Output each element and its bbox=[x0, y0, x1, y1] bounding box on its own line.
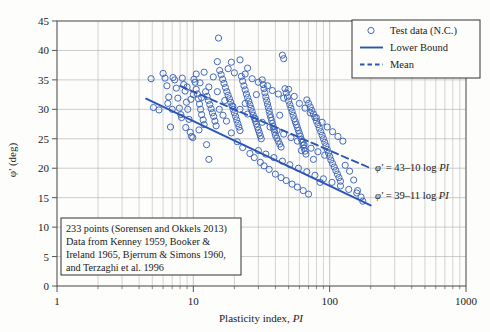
y-tick-label: 20 bbox=[38, 162, 50, 174]
eq-body: = 43–10 log bbox=[383, 162, 439, 173]
legend: Test data (N.C.)Lower BoundMean bbox=[352, 20, 480, 78]
y-tick-label: 0 bbox=[44, 280, 50, 292]
y-tick-label: 25 bbox=[38, 133, 50, 145]
x-tick-label: 1 bbox=[54, 295, 60, 307]
x-axis-title: Plasticity index, PI bbox=[219, 312, 304, 324]
legend-label: Lower Bound bbox=[390, 42, 449, 53]
legend-label: Test data (N.C.) bbox=[390, 25, 457, 37]
phi-vs-plasticity-index-chart: 051015202530354045 1101001000 φ' (deg) P… bbox=[0, 0, 490, 332]
y-axis-title: φ' (deg) bbox=[6, 143, 19, 178]
eq-variable: PI bbox=[438, 162, 449, 173]
x-axis-title-symbol: PI bbox=[292, 312, 305, 324]
y-tick-label: 35 bbox=[38, 74, 50, 86]
x-tick-label: 100 bbox=[321, 295, 338, 307]
x-tick-label: 10 bbox=[188, 295, 200, 307]
y-tick-label: 30 bbox=[38, 103, 50, 115]
note-box-line: and Terzaghi et al. 1996 bbox=[66, 262, 164, 273]
y-tick-label: 15 bbox=[38, 192, 50, 204]
mean-equation: φ' = 43–10 log PI bbox=[375, 162, 450, 173]
note-box: 233 points (Sorensen and Okkels 2013)Dat… bbox=[61, 218, 241, 275]
y-tick-label: 45 bbox=[38, 15, 50, 27]
eq-body: = 39–11 log bbox=[383, 190, 439, 201]
note-box-line: Ireland 1965, Bjerrum & Simons 1960, bbox=[66, 249, 226, 260]
eq-variable: PI bbox=[438, 190, 449, 201]
y-tick-label: 10 bbox=[38, 221, 50, 233]
note-box-line: Data from Kenney 1959, Booker & bbox=[66, 236, 210, 247]
x-tick-label: 1000 bbox=[455, 295, 478, 307]
y-tick-label: 40 bbox=[38, 44, 50, 56]
y-tick-label: 5 bbox=[44, 251, 50, 263]
chart-figure: 051015202530354045 1101001000 φ' (deg) P… bbox=[0, 0, 490, 332]
note-box-line: 233 points (Sorensen and Okkels 2013) bbox=[66, 223, 227, 235]
legend-label: Mean bbox=[390, 59, 415, 70]
x-axis-title-text: Plasticity index, bbox=[219, 312, 293, 324]
lower-bound-equation: φ' = 39–11 log PI bbox=[375, 190, 449, 201]
